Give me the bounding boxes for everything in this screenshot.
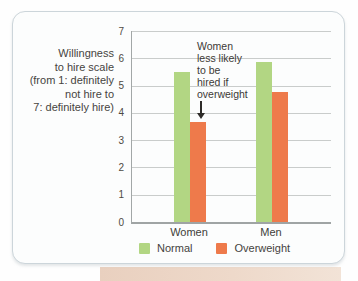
y-tick-label: 0 [106,217,124,228]
y-tick-label: 4 [106,107,124,118]
y-axis-title: Willingness to hire scale (from 1: defin… [12,47,114,115]
bar-normal-women [174,72,190,222]
category-label-men: Men [241,226,301,238]
y-tick-label: 3 [106,135,124,146]
bar-overweight-men [272,92,288,222]
annotation-arrow-head-icon [197,113,205,119]
gridline [132,140,331,141]
gridline [132,167,331,168]
legend-label: Overweight [234,242,290,254]
gridline [132,113,331,114]
y-tick-label: 1 [106,189,124,200]
figure-stage: Willingness to hire scale (from 1: defin… [0,0,358,281]
background-strip [100,267,341,281]
y-tick-label: 6 [106,53,124,64]
legend-entry-overweight: Overweight [216,242,290,254]
legend-swatch-overweight [216,243,227,254]
y-tick-label: 2 [106,162,124,173]
bar-overweight-women [190,122,206,222]
legend-label: Normal [157,242,192,254]
chart-legend: NormalOverweight [139,242,290,254]
annotation-text: Women less likely to be hired if overwei… [197,40,257,100]
gridline [132,31,331,32]
gridline [132,195,331,196]
y-tick-label: 5 [106,80,124,91]
legend-entry-normal: Normal [139,242,192,254]
bar-normal-men [256,62,272,222]
legend-swatch-normal [139,243,150,254]
category-label-women: Women [159,226,219,238]
y-tick-label: 7 [106,26,124,37]
